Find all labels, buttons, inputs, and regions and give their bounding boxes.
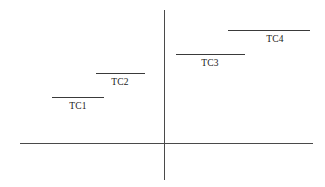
level-segment [228,30,310,31]
level-segment [176,54,245,55]
diagram-canvas: TC1TC2TC3TC4 [0,0,325,187]
level-segment [52,97,104,98]
horizontal-axis [20,143,313,144]
segment-label: TC1 [58,101,98,112]
vertical-axis [164,10,165,180]
level-segment [96,73,145,74]
segment-label: TC2 [100,77,140,88]
segment-label: TC3 [190,58,230,69]
segment-label: TC4 [255,34,295,45]
